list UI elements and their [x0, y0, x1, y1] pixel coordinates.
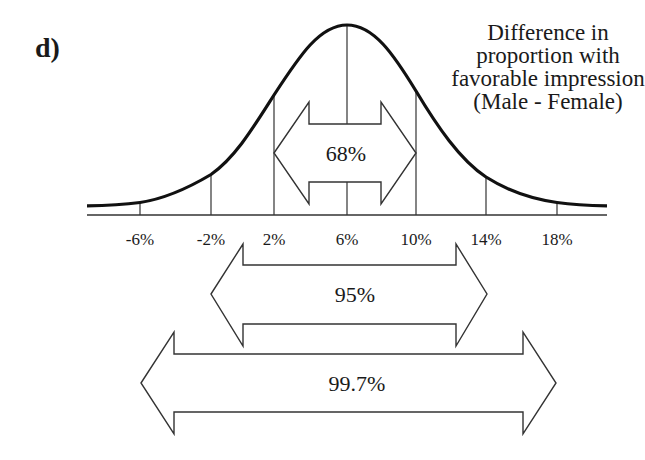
x-tick-labels: -6% -2% 2% 6% 10% 14% 18%: [126, 230, 573, 249]
tick-label: 14%: [470, 230, 501, 249]
interval-95-arrow: 95%: [211, 244, 487, 346]
normal-distribution-figure: d) Difference in proportion with favorab…: [0, 0, 645, 460]
tick-label: 6%: [336, 230, 359, 249]
panel-label: d): [35, 32, 60, 63]
interval-99-7-arrow: 99.7%: [141, 332, 556, 434]
tick-label: 18%: [541, 230, 572, 249]
caption-line-3: favorable impression: [451, 66, 645, 91]
caption-line-1: Difference in: [487, 20, 609, 45]
tick-label: 2%: [263, 230, 286, 249]
chart-caption: Difference in proportion with favorable …: [451, 20, 645, 114]
tick-label: 10%: [400, 230, 431, 249]
tick-label: -6%: [126, 230, 154, 249]
tick-label: -2%: [197, 230, 225, 249]
interval-label: 95%: [335, 282, 375, 307]
caption-line-2: proportion with: [476, 43, 620, 68]
interval-label: 68%: [326, 141, 366, 166]
interval-68-arrow: 68%: [274, 102, 416, 204]
interval-label: 99.7%: [329, 371, 386, 396]
caption-line-4: (Male - Female): [473, 89, 622, 114]
